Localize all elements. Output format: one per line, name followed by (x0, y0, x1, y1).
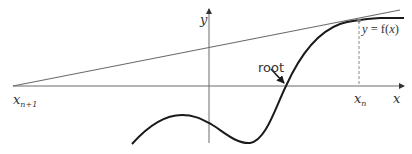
x-n1-label: xn+1 (13, 92, 37, 109)
function-curve (132, 18, 404, 144)
x-n-label: xn (354, 91, 367, 108)
y-axis-label: y (199, 12, 208, 27)
x-n1-subscript: n+1 (20, 100, 37, 109)
curve-label-eq: = f( (368, 22, 390, 36)
newton-method-diagram: y x xn xn+1 y = f(x) root (0, 0, 412, 154)
root-label: root (258, 60, 284, 75)
tangent-point (357, 19, 361, 23)
x-axis-label: x (393, 91, 401, 106)
curve-label-close: ) (395, 22, 399, 36)
curve-label: y = f(x) (360, 22, 399, 36)
x-n-subscript: n (361, 99, 366, 108)
